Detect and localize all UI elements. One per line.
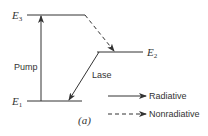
level-e2-label: E2 <box>146 46 158 60</box>
nonradiative-transition <box>85 15 114 51</box>
figure-caption: (a) <box>78 114 91 127</box>
legend-nonradiative: Nonradiative <box>108 109 200 119</box>
energy-level-diagram: E3 E2 E1 Pump Lase Radiative Nonradiativ… <box>0 0 208 136</box>
level-e3-label: E3 <box>11 9 23 23</box>
legend-radiative: Radiative <box>108 91 187 101</box>
lase-label: Lase <box>92 70 112 80</box>
legend: Radiative Nonradiative <box>108 91 200 119</box>
svg-text:Radiative: Radiative <box>149 91 187 101</box>
pump-label: Pump <box>14 62 38 72</box>
level-e1-label: E1 <box>11 95 23 109</box>
pump-transition: Pump <box>14 16 41 101</box>
level-e3: E3 <box>11 9 85 23</box>
svg-text:Nonradiative: Nonradiative <box>149 109 200 119</box>
level-e2: E2 <box>97 46 158 60</box>
lase-transition: Lase <box>69 52 112 100</box>
